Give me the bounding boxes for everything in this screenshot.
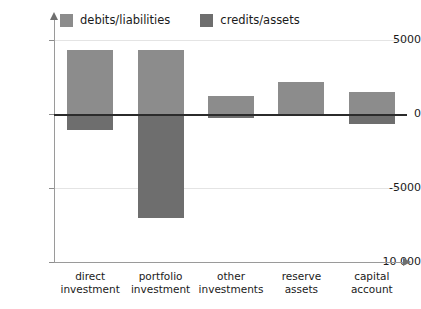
x-axis-category-label: capitalaccount bbox=[329, 270, 415, 295]
bar-series-group bbox=[0, 0, 421, 309]
bar-debits-liabilities bbox=[349, 114, 395, 124]
category-label-line2: account bbox=[329, 283, 415, 296]
bar-chart: debits/liabilities credits/assets 50000-… bbox=[0, 0, 421, 309]
bar-credits-assets bbox=[349, 92, 395, 114]
bar-credits-assets bbox=[208, 96, 254, 114]
zero-baseline bbox=[54, 114, 407, 116]
bar-credits-assets bbox=[67, 50, 113, 114]
bar-credits-assets bbox=[278, 82, 324, 114]
bar-debits-liabilities bbox=[138, 114, 184, 218]
category-label-line1: capital bbox=[329, 270, 415, 283]
bar-debits-liabilities bbox=[67, 114, 113, 130]
bar-credits-assets bbox=[138, 50, 184, 114]
